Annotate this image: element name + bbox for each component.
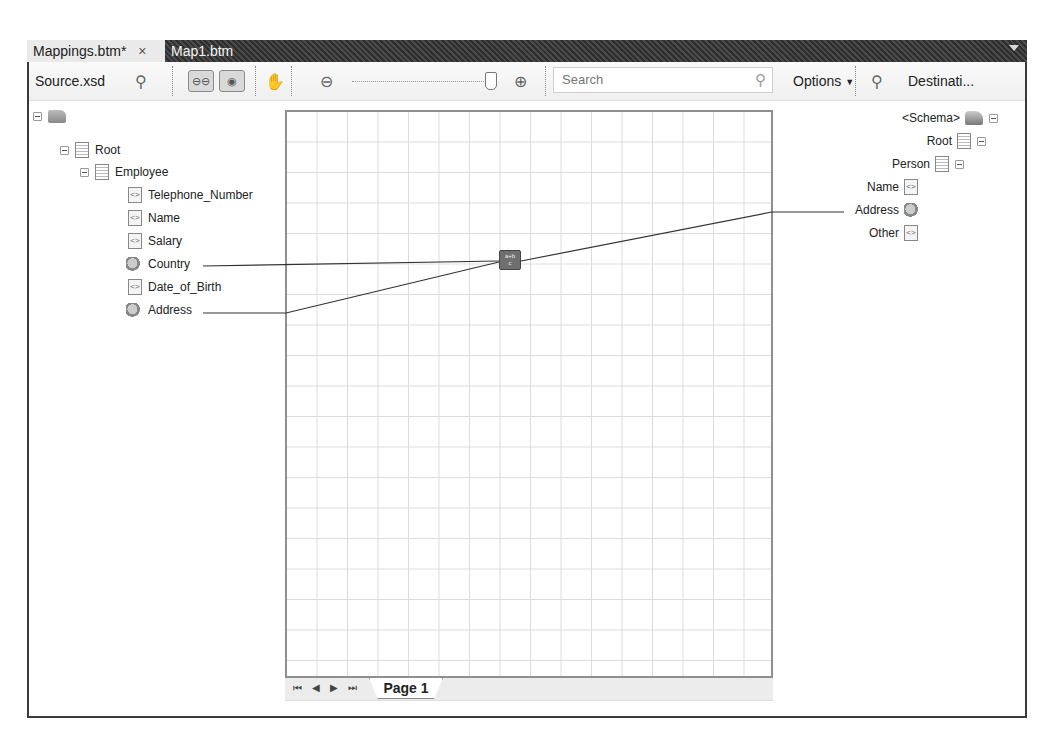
collapse-icon[interactable] (989, 114, 998, 123)
link-country-to-functoid[interactable] (203, 261, 499, 266)
collapse-icon[interactable] (977, 137, 986, 146)
dest-node-root[interactable]: Root (927, 131, 986, 151)
dest-node-schema[interactable]: <Schema> (902, 108, 998, 128)
node-label: Root (927, 134, 952, 148)
dest-node-other[interactable]: Other <> (869, 223, 918, 243)
dest-node-person[interactable]: Person (892, 154, 964, 174)
record-icon (935, 156, 949, 172)
linked-field-icon (904, 203, 920, 217)
node-label: <Schema> (902, 111, 960, 125)
mapping-links (0, 0, 1052, 744)
functoid-glyph-bottom: c (509, 260, 512, 267)
dest-node-address[interactable]: Address (855, 200, 920, 220)
link-address-to-functoid[interactable] (286, 262, 499, 313)
node-label: Person (892, 157, 930, 171)
field-icon: <> (904, 179, 918, 195)
functoid-glyph-top: a+b (505, 253, 515, 260)
node-label: Name (867, 180, 899, 194)
field-icon: <> (904, 225, 918, 241)
record-icon (957, 133, 971, 149)
dest-node-name[interactable]: Name <> (867, 177, 918, 197)
node-label: Other (869, 226, 899, 240)
collapse-icon[interactable] (955, 160, 964, 169)
link-functoid-to-address[interactable] (521, 212, 772, 261)
schema-icon (965, 111, 983, 125)
node-label: Address (855, 203, 899, 217)
string-concatenate-functoid[interactable]: a+b c (499, 250, 521, 270)
